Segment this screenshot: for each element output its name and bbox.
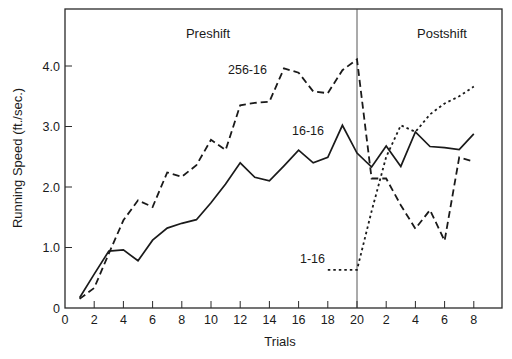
x-tick-label: 14 bbox=[262, 313, 276, 327]
x-tick-label: 18 bbox=[321, 313, 335, 327]
x-tick-label: 10 bbox=[204, 313, 218, 327]
x-tick-label: 16 bbox=[292, 313, 306, 327]
x-tick-label: 8 bbox=[470, 313, 477, 327]
plot-frame bbox=[65, 9, 502, 308]
series-label-16-16: 16-16 bbox=[292, 124, 324, 138]
x-tick-label: 2 bbox=[91, 313, 98, 327]
x-tick-label: 2 bbox=[383, 313, 390, 327]
x-tick-label: 0 bbox=[62, 313, 69, 327]
series-line-1-16 bbox=[328, 87, 474, 270]
line-chart: 01.02.03.04.0 024681012141618202468 Pres… bbox=[0, 0, 512, 359]
y-axis: 01.02.03.04.0 bbox=[43, 60, 72, 316]
x-axis: 024681012141618202468 bbox=[62, 301, 478, 327]
y-tick-label: 3.0 bbox=[43, 120, 60, 134]
x-tick-label: 6 bbox=[441, 313, 448, 327]
y-tick-label: 0 bbox=[53, 302, 60, 316]
preshift-label: Preshift bbox=[186, 26, 230, 41]
postshift-label: Postshift bbox=[417, 26, 467, 41]
series-line-16-16 bbox=[80, 125, 474, 297]
x-tick-label: 20 bbox=[350, 313, 364, 327]
y-axis-title: Running Speed (ft./sec.) bbox=[10, 88, 25, 228]
y-tick-label: 2.0 bbox=[43, 181, 60, 195]
y-tick-label: 4.0 bbox=[43, 60, 60, 74]
x-tick-label: 8 bbox=[178, 313, 185, 327]
series-line-256-16 bbox=[80, 59, 474, 299]
series-group bbox=[80, 59, 474, 299]
x-tick-label: 12 bbox=[233, 313, 247, 327]
series-label-1-16: 1-16 bbox=[300, 252, 325, 266]
x-tick-label: 4 bbox=[120, 313, 127, 327]
x-axis-title: Trials bbox=[264, 334, 296, 349]
x-tick-label: 6 bbox=[149, 313, 156, 327]
series-label-256-16: 256-16 bbox=[228, 63, 267, 77]
x-tick-label: 4 bbox=[412, 313, 419, 327]
y-tick-label: 1.0 bbox=[43, 241, 60, 255]
